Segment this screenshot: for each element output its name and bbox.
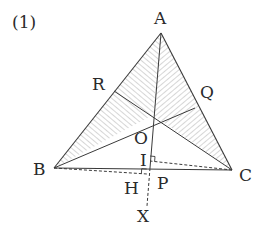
label-C: C — [239, 165, 252, 185]
geometry-diagram: (1) A R Q O I B C P H X — [0, 0, 266, 242]
problem-number: (1) — [12, 12, 36, 32]
label-P: P — [157, 173, 168, 193]
label-X: X — [137, 206, 150, 226]
label-Q: Q — [200, 82, 214, 102]
label-R: R — [92, 74, 106, 94]
label-O: O — [134, 128, 148, 148]
label-I: I — [140, 150, 147, 170]
label-H: H — [124, 178, 139, 198]
label-B: B — [33, 159, 46, 179]
dashed-PX — [147, 168, 150, 206]
shaded-triangle-ACO — [153, 33, 232, 170]
label-A: A — [153, 8, 167, 28]
